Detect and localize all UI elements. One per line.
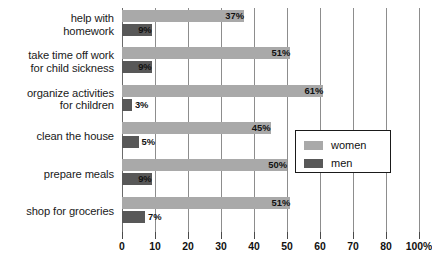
category-label-line: for children [0, 99, 114, 112]
category-label-line: take time off work [0, 49, 114, 62]
x-tick-label-3: 30 [215, 241, 227, 252]
category-label-5: shop for groceries [0, 205, 114, 218]
x-tick-label-8: 80 [380, 241, 392, 252]
x-tick-50 [287, 232, 288, 239]
x-tick-70 [353, 232, 354, 239]
x-tick-label-1: 10 [149, 241, 161, 252]
legend-item-women: women [304, 139, 366, 152]
bar-value-men-5: 7% [145, 211, 162, 223]
bar-value-women-0: 37% [122, 10, 247, 22]
bar-men-5 [122, 211, 145, 223]
bar-value-women-3: 45% [122, 122, 274, 134]
bar-value-men-2: 3% [132, 99, 149, 111]
x-tick-80 [386, 232, 387, 239]
x-tick-0 [122, 232, 123, 239]
x-tick-label-4: 40 [248, 241, 260, 252]
x-tick-label-6: 60 [314, 241, 326, 252]
category-label-line: clean the house [0, 130, 114, 143]
plot-area: 37%9%51%9%61%3%45%5%50%9%51%7% [122, 8, 419, 232]
category-label-line: prepare meals [0, 168, 114, 181]
legend-label-women: women [331, 139, 366, 152]
bar-value-men-0: 9% [122, 24, 155, 36]
legend-swatch-men [304, 159, 323, 168]
bar-value-women-5: 51% [122, 197, 293, 209]
gridline-80 [386, 8, 387, 232]
category-label-1: take time off workfor child sickness [0, 49, 114, 74]
bar-value-women-2: 61% [122, 85, 326, 97]
bar-value-men-3: 5% [139, 136, 156, 148]
category-label-4: prepare meals [0, 168, 114, 181]
category-label-line: homework [0, 25, 114, 38]
x-tick-label-5: 50 [281, 241, 293, 252]
category-label-3: clean the house [0, 130, 114, 143]
legend-item-men: men [304, 157, 352, 170]
bar-value-men-1: 9% [122, 61, 155, 73]
category-label-line: for child sickness [0, 62, 114, 75]
legend-swatch-women [304, 141, 323, 150]
gridline-60 [320, 8, 321, 232]
x-tick-label-9: 100% [406, 241, 432, 252]
category-label-line: shop for groceries [0, 205, 114, 218]
gridline-70 [353, 8, 354, 232]
x-axis: 01020304050607080100% [122, 232, 419, 258]
category-axis-labels: help withhomeworktake time off workfor c… [0, 0, 118, 232]
category-label-line: help with [0, 12, 114, 25]
x-tick-30 [221, 232, 222, 239]
bar-men-3 [122, 136, 139, 148]
bar-value-women-1: 51% [122, 47, 293, 59]
x-tick-90 [419, 232, 420, 239]
category-label-2: organize activitiesfor children [0, 87, 114, 112]
bar-value-women-4: 50% [122, 159, 290, 171]
x-tick-label-2: 20 [182, 241, 194, 252]
category-label-line: organize activities [0, 87, 114, 100]
x-tick-label-0: 0 [119, 241, 125, 252]
category-label-0: help withhomework [0, 12, 114, 37]
x-tick-20 [188, 232, 189, 239]
legend-label-men: men [331, 157, 352, 170]
bar-men-2 [122, 99, 132, 111]
bar-value-men-4: 9% [122, 173, 155, 185]
x-tick-10 [155, 232, 156, 239]
x-tick-label-7: 70 [347, 241, 359, 252]
x-tick-40 [254, 232, 255, 239]
gridline-90 [419, 8, 420, 232]
chart-legend: womenmen [295, 130, 391, 173]
x-tick-60 [320, 232, 321, 239]
